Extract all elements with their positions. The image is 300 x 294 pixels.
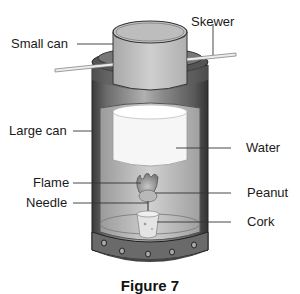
label-cork: Cork	[247, 215, 274, 229]
label-flame: Flame	[33, 176, 69, 190]
small-can	[113, 21, 187, 90]
label-water: Water	[246, 141, 280, 155]
peanut	[139, 190, 157, 202]
label-small-can: Small can	[11, 37, 68, 51]
cork	[137, 211, 159, 238]
figure-caption: Figure 7	[0, 278, 300, 294]
label-needle: Needle	[26, 196, 67, 210]
label-large-can: Large can	[9, 124, 67, 138]
label-skewer: Skewer	[191, 15, 234, 29]
label-peanut: Peanut	[247, 186, 288, 200]
water	[113, 105, 187, 166]
